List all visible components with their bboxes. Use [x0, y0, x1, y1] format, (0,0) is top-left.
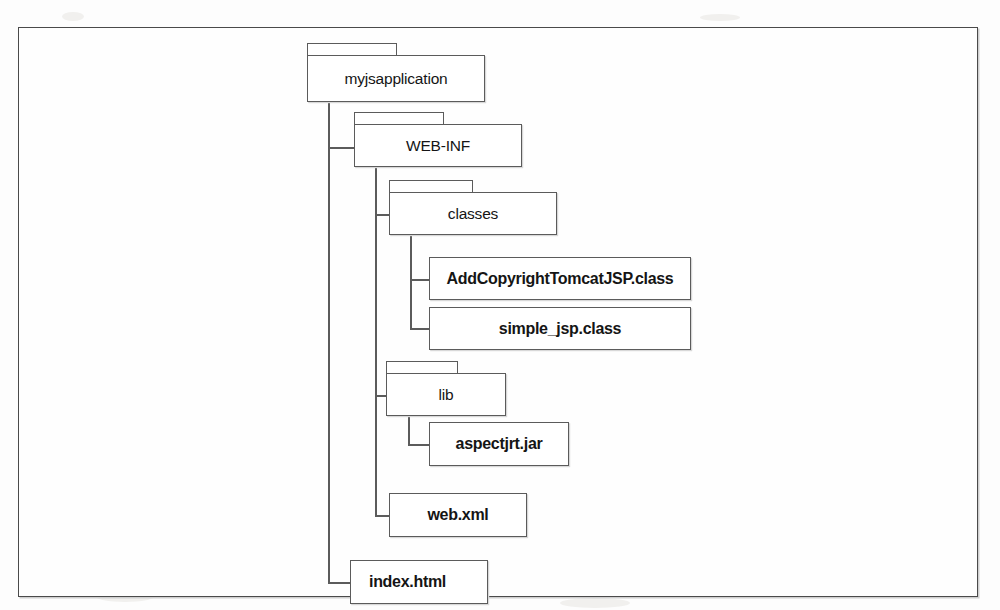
node-label-web-xml: web.xml	[390, 507, 526, 523]
folder-tab-classes	[389, 180, 473, 192]
connector-myjsapplication-to-index-html	[328, 582, 350, 584]
folder-tab-web-inf	[354, 112, 444, 124]
node-label-web-inf: WEB-INF	[355, 138, 521, 154]
node-label-addcopyrighttomcatjsp-class: AddCopyrightTomcatJSP.class	[430, 271, 690, 287]
connector-lib-trunk	[408, 416, 410, 445]
node-classes[interactable]: classes	[389, 192, 557, 235]
folder-tab-myjsapplication	[307, 43, 397, 55]
connector-myjsapplication-trunk	[328, 102, 330, 583]
connector-web-inf-to-web-xml	[375, 515, 389, 517]
node-myjsapplication[interactable]: myjsapplication	[307, 55, 485, 102]
diagram-canvas: myjsapplication WEB-INF classes AddCopyr…	[0, 0, 1000, 610]
figure-frame: myjsapplication WEB-INF classes AddCopyr…	[18, 27, 978, 597]
node-web-inf[interactable]: WEB-INF	[354, 124, 522, 167]
node-label-simple-jsp-class: simple_jsp.class	[430, 321, 690, 337]
node-aspectjrt-jar[interactable]: aspectjrt.jar	[429, 422, 569, 466]
node-addcopyrighttomcatjsp-class[interactable]: AddCopyrightTomcatJSP.class	[429, 257, 691, 300]
paper-speck	[62, 12, 84, 21]
node-web-xml[interactable]: web.xml	[389, 493, 527, 537]
paper-speck	[560, 598, 630, 608]
node-index-html[interactable]: index.html	[350, 560, 488, 604]
folder-tab-lib	[386, 361, 458, 373]
connector-classes-trunk	[410, 235, 412, 329]
node-label-index-html: index.html	[351, 574, 487, 590]
node-simple-jsp-class[interactable]: simple_jsp.class	[429, 307, 691, 350]
node-label-myjsapplication: myjsapplication	[308, 71, 484, 87]
node-lib[interactable]: lib	[386, 373, 506, 416]
paper-speck	[700, 14, 740, 21]
connector-web-inf-trunk	[375, 167, 377, 516]
node-label-lib: lib	[387, 387, 505, 403]
connector-classes-to-addcopyrighttomcatjsp-class	[410, 279, 429, 281]
connector-myjsapplication-to-web-inf	[328, 147, 355, 149]
connector-lib-to-aspectjrt-jar	[408, 444, 429, 446]
connector-classes-to-simple-jsp-class	[410, 328, 429, 330]
connector-web-inf-to-classes	[375, 214, 390, 216]
node-label-classes: classes	[390, 206, 556, 222]
node-label-aspectjrt-jar: aspectjrt.jar	[430, 436, 568, 452]
